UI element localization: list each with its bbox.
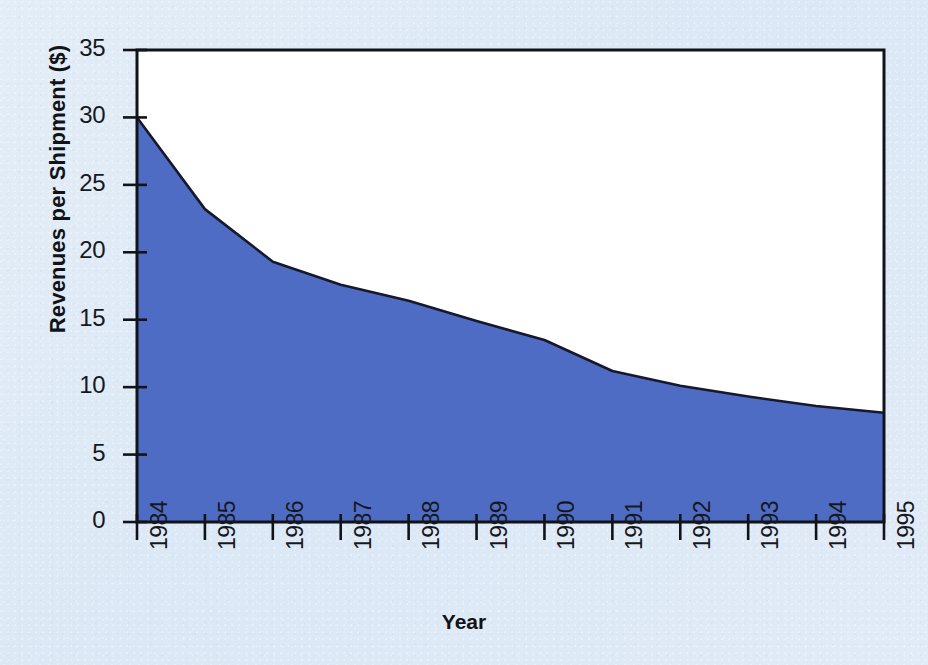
x-tick-label: 1994: [825, 501, 852, 550]
chart-figure: 05101520253035 1984198519861987198819891…: [0, 0, 928, 665]
x-tick-label: 1995: [893, 501, 920, 550]
y-tick-label: 0: [45, 506, 105, 534]
y-axis-title: Revenues per Shipment ($): [45, 0, 71, 399]
x-tick-label: 1992: [689, 501, 716, 550]
x-tick-label: 1985: [214, 501, 241, 550]
y-axis-title-text: Revenues per Shipment ($): [45, 45, 70, 334]
x-axis-title: Year: [0, 610, 928, 634]
x-tick-label: 1987: [350, 501, 377, 550]
x-tick-label: 1990: [553, 501, 580, 550]
x-tick-label: 1988: [418, 501, 445, 550]
x-tick-label: 1993: [757, 501, 784, 550]
y-tick-label: 5: [45, 439, 105, 467]
area-chart-canvas: [0, 0, 928, 665]
x-tick-label: 1984: [146, 501, 173, 550]
x-tick-label: 1986: [282, 501, 309, 550]
x-tick-label: 1991: [621, 501, 648, 550]
x-tick-label: 1989: [486, 501, 513, 550]
